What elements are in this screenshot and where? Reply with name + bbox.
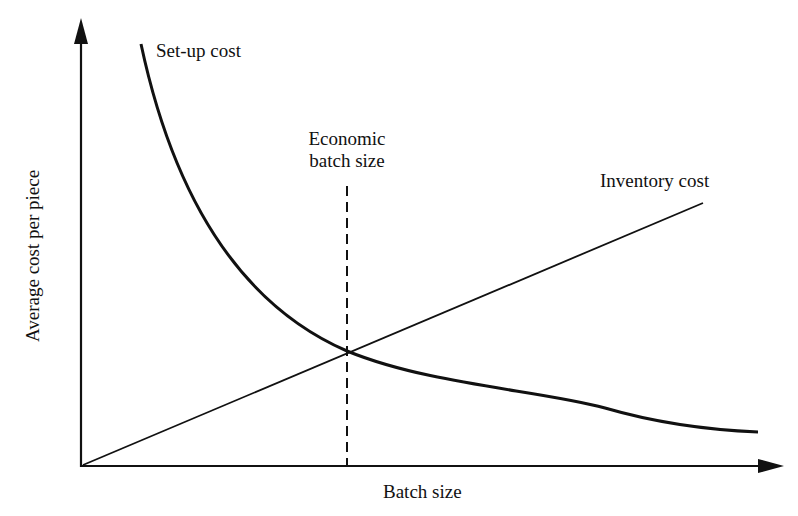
economic-label-line1: Economic [294,128,400,150]
y-axis-arrow-icon [74,18,88,44]
inventory-cost-label: Inventory cost [600,170,709,192]
chart-canvas [0,0,798,516]
y-axis-label: Average cost per piece [22,170,44,342]
economic-label-line2: batch size [294,150,400,172]
x-axis-label: Batch size [383,481,462,503]
setup-cost-curve [141,44,758,432]
x-axis-arrow-icon [758,459,784,473]
economic-batch-size-label: Economic batch size [294,128,400,172]
setup-cost-label: Set-up cost [156,40,241,62]
inventory-cost-line [83,203,703,465]
